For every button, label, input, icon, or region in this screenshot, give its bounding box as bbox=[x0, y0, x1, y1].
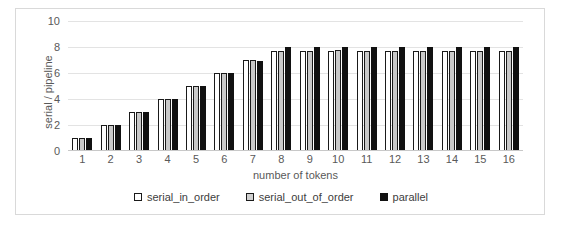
bar-serial_out_of_order-3[interactable] bbox=[136, 112, 142, 151]
bar-parallel-14[interactable] bbox=[456, 47, 462, 151]
bar-serial_out_of_order-10[interactable] bbox=[335, 50, 341, 151]
x-tick-label: 9 bbox=[296, 153, 324, 169]
bar-parallel-4[interactable] bbox=[172, 99, 178, 151]
bar-serial_in_order-2[interactable] bbox=[101, 125, 107, 151]
legend-label: serial_in_order bbox=[147, 191, 220, 203]
x-tick-label: 3 bbox=[125, 153, 153, 169]
bar-group bbox=[438, 21, 466, 151]
bar-parallel-16[interactable] bbox=[513, 47, 519, 151]
y-tick-label: 8 bbox=[54, 41, 60, 53]
bar-serial_out_of_order-13[interactable] bbox=[420, 51, 426, 151]
bar-serial_out_of_order-9[interactable] bbox=[307, 51, 313, 151]
y-tick-label: 4 bbox=[54, 93, 60, 105]
x-tick-label: 16 bbox=[495, 153, 523, 169]
bar-group bbox=[381, 21, 409, 151]
bar-serial_out_of_order-11[interactable] bbox=[364, 51, 370, 151]
bar-serial_in_order-12[interactable] bbox=[385, 51, 391, 151]
bar-serial_in_order-6[interactable] bbox=[214, 73, 220, 151]
bar-parallel-6[interactable] bbox=[228, 73, 234, 151]
chart-frame: serial / pipeline 1086420 12345678910111… bbox=[15, 8, 545, 215]
bar-group bbox=[296, 21, 324, 151]
bar-group bbox=[466, 21, 494, 151]
x-tick-label: 1 bbox=[68, 153, 96, 169]
bar-parallel-9[interactable] bbox=[314, 47, 320, 151]
chart-legend: serial_in_orderserial_out_of_orderparall… bbox=[16, 191, 546, 203]
bar-group bbox=[409, 21, 437, 151]
legend-label: parallel bbox=[393, 191, 428, 203]
bar-parallel-3[interactable] bbox=[143, 112, 149, 151]
bar-serial_in_order-5[interactable] bbox=[186, 86, 192, 151]
bar-serial_out_of_order-4[interactable] bbox=[165, 99, 171, 151]
bar-serial_out_of_order-15[interactable] bbox=[477, 51, 483, 151]
y-tick-label: 6 bbox=[54, 67, 60, 79]
bar-group bbox=[153, 21, 181, 151]
bar-serial_in_order-11[interactable] bbox=[357, 51, 363, 151]
bar-group bbox=[267, 21, 295, 151]
bar-group bbox=[125, 21, 153, 151]
bar-serial_in_order-14[interactable] bbox=[442, 51, 448, 151]
bar-serial_in_order-10[interactable] bbox=[328, 51, 334, 151]
bar-serial_in_order-13[interactable] bbox=[413, 51, 419, 151]
bar-group bbox=[96, 21, 124, 151]
bar-serial_out_of_order-16[interactable] bbox=[506, 51, 512, 151]
bar-parallel-12[interactable] bbox=[399, 47, 405, 151]
bar-serial_in_order-3[interactable] bbox=[129, 112, 135, 151]
bar-series-layer bbox=[68, 21, 523, 151]
y-tick-label: 2 bbox=[54, 119, 60, 131]
x-tick-label: 7 bbox=[239, 153, 267, 169]
bar-group bbox=[239, 21, 267, 151]
bar-group bbox=[324, 21, 352, 151]
bar-serial_out_of_order-8[interactable] bbox=[278, 51, 284, 151]
bar-serial_out_of_order-6[interactable] bbox=[221, 73, 227, 151]
bar-parallel-7[interactable] bbox=[257, 61, 263, 151]
legend-swatch-icon bbox=[134, 193, 142, 201]
bar-serial_in_order-9[interactable] bbox=[300, 51, 306, 151]
bar-serial_out_of_order-2[interactable] bbox=[108, 125, 114, 151]
legend-item-parallel[interactable]: parallel bbox=[380, 191, 428, 203]
y-tick-label: 10 bbox=[48, 15, 60, 27]
bar-group bbox=[352, 21, 380, 151]
bar-parallel-5[interactable] bbox=[200, 86, 206, 151]
x-tick-label: 11 bbox=[352, 153, 380, 169]
x-tick-label: 2 bbox=[96, 153, 124, 169]
bar-parallel-11[interactable] bbox=[371, 47, 377, 151]
bar-serial_in_order-7[interactable] bbox=[243, 60, 249, 151]
x-tick-label: 14 bbox=[438, 153, 466, 169]
y-axis-ticks: 1086420 bbox=[34, 9, 64, 163]
bar-parallel-15[interactable] bbox=[484, 47, 490, 151]
bar-group bbox=[210, 21, 238, 151]
bar-serial_out_of_order-7[interactable] bbox=[250, 60, 256, 151]
bar-serial_in_order-16[interactable] bbox=[499, 51, 505, 151]
legend-label: serial_out_of_order bbox=[259, 191, 354, 203]
bar-group bbox=[495, 21, 523, 151]
bar-parallel-8[interactable] bbox=[285, 47, 291, 151]
x-axis-ticks: 12345678910111213141516 bbox=[68, 153, 523, 169]
x-axis-line bbox=[68, 150, 523, 151]
legend-swatch-icon bbox=[246, 193, 254, 201]
x-axis-title: number of tokens bbox=[68, 169, 523, 181]
x-tick-label: 13 bbox=[409, 153, 437, 169]
legend-swatch-icon bbox=[380, 193, 388, 201]
x-tick-label: 12 bbox=[381, 153, 409, 169]
bar-group bbox=[182, 21, 210, 151]
x-tick-label: 6 bbox=[210, 153, 238, 169]
x-tick-label: 15 bbox=[466, 153, 494, 169]
bar-parallel-10[interactable] bbox=[342, 47, 348, 151]
plot-area bbox=[68, 21, 523, 151]
bar-parallel-2[interactable] bbox=[115, 125, 121, 151]
bar-serial_in_order-8[interactable] bbox=[271, 51, 277, 151]
bar-serial_in_order-15[interactable] bbox=[470, 51, 476, 151]
bar-group bbox=[68, 21, 96, 151]
x-tick-label: 8 bbox=[267, 153, 295, 169]
bar-serial_out_of_order-14[interactable] bbox=[449, 51, 455, 151]
bar-parallel-13[interactable] bbox=[427, 47, 433, 151]
legend-item-serial_in_order[interactable]: serial_in_order bbox=[134, 191, 220, 203]
y-tick-label: 0 bbox=[54, 145, 60, 157]
x-tick-label: 4 bbox=[153, 153, 181, 169]
bar-serial_out_of_order-5[interactable] bbox=[193, 86, 199, 151]
x-tick-label: 10 bbox=[324, 153, 352, 169]
legend-item-serial_out_of_order[interactable]: serial_out_of_order bbox=[246, 191, 354, 203]
bar-serial_out_of_order-12[interactable] bbox=[392, 51, 398, 151]
x-tick-label: 5 bbox=[182, 153, 210, 169]
bar-serial_in_order-4[interactable] bbox=[158, 99, 164, 151]
